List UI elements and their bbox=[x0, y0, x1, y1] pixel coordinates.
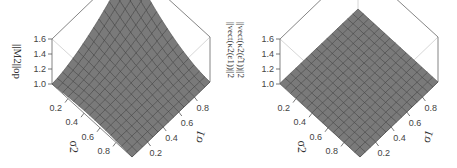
y-tick: 0.6 bbox=[309, 132, 322, 142]
sigma1-label: σ1 bbox=[419, 128, 436, 145]
x-tick: 0.2 bbox=[150, 148, 163, 158]
x-tick: 0.6 bbox=[409, 118, 422, 128]
figure: 1.01.21.41.60.20.40.60.80.20.40.60.8σ2σ1… bbox=[0, 0, 457, 168]
z-tick: 1.4 bbox=[261, 49, 274, 59]
sigma2-label: σ2 bbox=[295, 141, 309, 153]
panel-2: 1.01.21.41.60.20.40.60.80.20.40.60.8σ2σ1 bbox=[261, 0, 438, 158]
x-tick: 0.8 bbox=[424, 103, 437, 113]
z-label-right-denominator: ||vect(κ2(ε̂1))||2 bbox=[236, 22, 246, 78]
z-tick: 1.6 bbox=[261, 34, 274, 44]
sigma1-label: σ1 bbox=[191, 128, 208, 145]
x-tick: 0.8 bbox=[196, 103, 209, 113]
x-tick: 0.6 bbox=[181, 118, 194, 128]
z-tick: 1.4 bbox=[33, 49, 46, 59]
z-tick: 1.2 bbox=[33, 64, 46, 74]
z-tick: 1.6 bbox=[33, 34, 46, 44]
z-tick: 1.2 bbox=[261, 64, 274, 74]
sigma2-label: σ2 bbox=[67, 141, 81, 153]
y-tick: 0.4 bbox=[65, 117, 78, 127]
y-tick: 0.4 bbox=[293, 117, 306, 127]
z-label-left: ||M2||op bbox=[12, 44, 24, 80]
z-label-right-numerator: ||vect(κ2(ε1))||2 bbox=[226, 22, 236, 78]
y-tick: 0.8 bbox=[97, 146, 110, 156]
z-tick: 1.0 bbox=[33, 79, 46, 89]
y-tick: 0.6 bbox=[81, 132, 94, 142]
x-tick: 0.4 bbox=[165, 133, 178, 143]
y-tick: 0.2 bbox=[277, 103, 290, 113]
panel-1: 1.01.21.41.60.20.40.60.80.20.40.60.8σ2σ1 bbox=[33, 0, 210, 158]
surface-plots: 1.01.21.41.60.20.40.60.80.20.40.60.8σ2σ1… bbox=[0, 0, 457, 168]
y-tick: 0.8 bbox=[325, 146, 338, 156]
y-tick: 0.2 bbox=[49, 103, 62, 113]
x-tick: 0.4 bbox=[393, 133, 406, 143]
x-tick: 0.2 bbox=[378, 148, 391, 158]
z-tick: 1.0 bbox=[261, 79, 274, 89]
